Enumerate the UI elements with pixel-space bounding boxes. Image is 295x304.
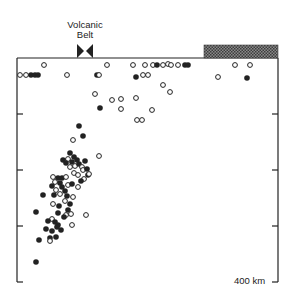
filled-circle-icon [84,166,90,172]
open-circle-icon [42,63,47,68]
open-circle-icon [135,118,140,123]
filled-circle-icon [43,226,49,232]
open-circle-icon [146,73,151,78]
volcanic-belt-label: Volcanic Belt [55,20,115,40]
filled-circle-icon [244,75,250,81]
filled-circle-icon [69,181,75,187]
open-circle-icon [68,165,73,170]
filled-circle-icon [56,203,62,209]
volcanic-belt-label-line2: Belt [55,30,115,40]
open-circle-icon [18,73,23,78]
filled-circle-icon [154,62,160,68]
open-circle-icon [168,90,173,95]
hypocenter-points [18,62,253,265]
filled-circle-icon [76,123,82,129]
filled-circle-icon [61,214,67,220]
open-circle-icon [233,63,238,68]
filled-circle-icon [45,218,51,224]
open-circle-icon [161,83,166,88]
filled-circle-icon [51,192,57,198]
open-circle-icon [176,63,181,68]
filled-circle-icon [64,193,70,199]
filled-circle-icon [78,178,84,184]
filled-circle-icon [67,150,73,156]
open-circle-icon [161,63,166,68]
filled-circle-icon [54,224,60,230]
filled-circle-icon [49,228,55,234]
open-circle-icon [248,63,253,68]
open-circle-icon [140,118,145,123]
open-circle-icon [54,188,59,193]
open-circle-icon [110,98,115,103]
depth-scale-label: 400 km [234,276,265,286]
open-circle-icon [141,73,146,78]
open-circle-icon [71,195,76,200]
filled-circle-icon [185,62,191,68]
open-circle-icon [150,108,155,113]
filled-circle-icon [36,237,42,243]
open-circle-icon [105,63,110,68]
open-circle-icon [76,185,81,190]
open-circle-icon [87,172,92,177]
filled-circle-icon [133,74,139,80]
open-circle-icon [143,63,148,68]
open-circle-icon [69,212,74,217]
open-circle-icon [48,239,53,244]
open-circle-icon [70,223,75,228]
open-circle-icon [63,199,68,204]
filled-circle-icon [82,158,88,164]
open-circle-icon [169,63,174,68]
filled-circle-icon [80,133,86,139]
filled-circle-icon [62,188,68,194]
open-circle-icon [134,96,139,101]
volcanic-left-triangle-icon [77,44,84,58]
open-circle-icon [119,107,124,112]
diagram-canvas [0,0,295,304]
open-circle-icon [71,138,76,143]
filled-circle-icon [33,259,39,265]
volcanic-right-triangle-icon [86,44,93,58]
open-circle-icon [64,175,69,180]
open-circle-icon [24,73,29,78]
open-circle-icon [119,97,124,102]
hatched-bar [204,45,278,58]
filled-circle-icon [40,192,46,198]
filled-circle-icon [55,210,61,216]
filled-circle-icon [35,72,41,78]
filled-circle-icon [97,105,103,111]
open-circle-icon [51,175,56,180]
open-circle-icon [51,202,56,207]
filled-circle-icon [33,209,39,215]
open-circle-icon [97,73,102,78]
section-frame [17,58,278,282]
open-circle-icon [216,75,221,80]
filled-circle-icon [67,201,73,207]
open-circle-icon [58,192,63,197]
hatched-region-bar [204,45,278,58]
open-circle-icon [84,213,89,218]
open-circle-icon [97,154,102,159]
filled-circle-icon [53,234,59,240]
open-circle-icon [131,63,136,68]
open-circle-icon [76,173,81,178]
volcanic-belt-marker-icon [77,44,93,58]
open-circle-icon [65,73,70,78]
open-circle-icon [93,92,98,97]
